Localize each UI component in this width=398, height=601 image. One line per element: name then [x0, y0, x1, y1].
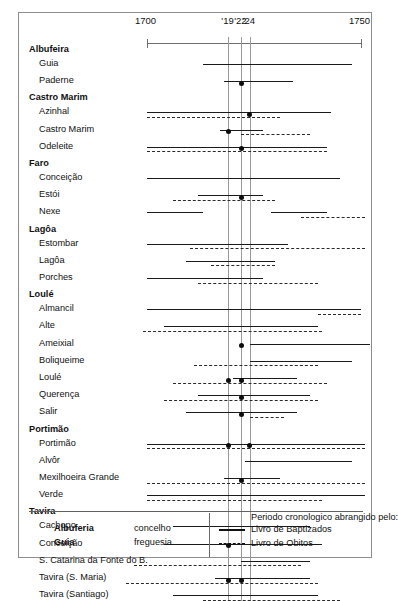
freguesia-label: Boliqueime [39, 355, 84, 365]
freguesia-label: Lagôa [39, 255, 65, 265]
legend-swatch-dashed [219, 543, 245, 544]
obitos-bar [143, 331, 323, 332]
baptizados-bar [147, 212, 203, 213]
obitos-bar [211, 265, 275, 266]
freguesia-label: Paderne [39, 75, 74, 85]
baptizados-bar [147, 244, 288, 245]
freguesia-label: Porches [39, 272, 73, 282]
concelho-label: Faro [29, 158, 49, 168]
event-marker-dot [239, 343, 244, 348]
event-marker-dot [239, 412, 244, 417]
baptizados-bar [224, 81, 292, 82]
legend-vertical-divider [209, 513, 210, 557]
freguesia-label: Almancil [39, 303, 74, 313]
event-marker-dot [226, 378, 231, 383]
obitos-bar [241, 134, 309, 135]
event-marker-dot [239, 478, 244, 483]
legend-freguesia-word: freguesia [134, 537, 172, 547]
freguesia-label: Tavira (S. Maria) [39, 572, 106, 582]
chart-frame: 1700'19'22'241750 AlbufeiraGuiaPaderneCa… [18, 12, 372, 558]
obitos-bar [173, 200, 276, 201]
baptizados-bar [147, 278, 263, 279]
legend-freguesia-sample: Guia [54, 537, 74, 547]
freguesia-label: Odeleite [39, 141, 73, 151]
axis-label: '24 [243, 15, 255, 26]
baptizados-bar [250, 361, 353, 362]
obitos-bar [126, 583, 319, 584]
event-marker-dot [226, 578, 231, 583]
freguesia-label: Alvôr [39, 455, 60, 465]
freguesia-label: Nexe [39, 206, 60, 216]
baptizados-bar [250, 344, 370, 345]
event-marker-dot [239, 146, 244, 151]
freguesia-label: Alte [39, 320, 55, 330]
baptizados-bar [224, 478, 280, 479]
baptizados-bar [173, 595, 319, 596]
event-marker-dot [239, 378, 244, 383]
freguesia-label: Tavira (Santiago) [39, 589, 108, 599]
event-marker-dot [226, 443, 231, 448]
event-marker-dot [226, 129, 231, 134]
obitos-bar [198, 283, 318, 284]
axis-label: '19 [221, 15, 233, 26]
freguesia-label: Azinhal [39, 106, 69, 116]
obitos-bar [194, 365, 318, 366]
baptizados-bar [164, 326, 318, 327]
obitos-bar [147, 483, 365, 484]
obitos-bar [318, 314, 361, 315]
baptizados-bar [198, 395, 309, 396]
legend-series-label: Livro de Obitos [251, 538, 313, 548]
baptizados-bar [147, 444, 365, 445]
obitos-bar [147, 117, 280, 118]
baptizados-bar [198, 195, 262, 196]
freguesia-label: Mexilhoeira Grande [39, 472, 119, 482]
legend-series-label: Livro de Baptizados [251, 524, 332, 534]
axis-label: 1750 [349, 15, 370, 26]
obitos-bar [147, 500, 322, 501]
legend-swatch-solid [219, 529, 245, 531]
legend: Albuferia concelho Guia freguesia Period… [29, 511, 363, 557]
baptizados-bar [147, 495, 365, 496]
baptizados-bar [147, 112, 331, 113]
axis-labels: 1700'19'22'241750 [19, 13, 373, 31]
obitos-bar [250, 417, 284, 418]
concelho-label: Portimão [29, 424, 69, 434]
baptizados-bar [271, 212, 327, 213]
axis-line [147, 43, 361, 44]
freguesia-label: Salir [39, 406, 57, 416]
freguesia-label: Guia [39, 58, 58, 68]
legend-concelho-sample: Albuferia [54, 523, 94, 533]
freguesia-label: Estói [39, 189, 59, 199]
axis-label: 1700 [135, 15, 156, 26]
baptizados-bar [147, 309, 361, 310]
concelho-label: Castro Marim [29, 92, 88, 102]
freguesia-label: Estombar [39, 238, 78, 248]
axis-tick [361, 39, 362, 48]
event-marker-dot [239, 195, 244, 200]
baptizados-bar [147, 178, 340, 179]
obitos-bar [147, 448, 365, 449]
legend-title: Periodo cronologico abrangido pelo: [251, 512, 398, 522]
obitos-bar [173, 383, 327, 384]
obitos-bar [164, 400, 318, 401]
concelho-label: Albufeira [29, 44, 69, 54]
freguesia-label: Ameixial [39, 338, 74, 348]
baptizados-bar [203, 64, 353, 65]
event-marker-dot [239, 578, 244, 583]
obitos-bar [190, 248, 365, 249]
freguesia-label: Castro Marim [39, 124, 94, 134]
legend-concelho-word: concelho [134, 523, 171, 533]
event-marker-dot [239, 395, 244, 400]
event-marker-dot [239, 81, 244, 86]
freguesia-label: Conceição [39, 172, 82, 182]
baptizados-bar [147, 147, 327, 148]
obitos-bar [147, 151, 327, 152]
obitos-bar [134, 565, 301, 566]
concelho-label: Loulé [29, 289, 54, 299]
freguesia-label: Loulé [39, 372, 61, 382]
freguesia-label: Querença [39, 389, 79, 399]
concelho-label: Lagôa [29, 224, 56, 234]
baptizados-bar [245, 461, 352, 462]
freguesia-label: Verde [39, 489, 63, 499]
baptizados-bar [186, 261, 276, 262]
